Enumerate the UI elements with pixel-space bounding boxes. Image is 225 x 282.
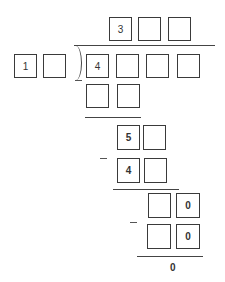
- subtraction-line-3: [137, 256, 203, 257]
- step4-digit-1[interactable]: [148, 193, 171, 218]
- dividend-digit-2[interactable]: [116, 54, 139, 78]
- step2-digit-1[interactable]: 5: [117, 125, 140, 150]
- step1-digit-2[interactable]: [117, 84, 140, 108]
- minus-sign-3: [130, 222, 137, 223]
- step3-digit-1[interactable]: 4: [117, 158, 140, 183]
- quotient-digit-1[interactable]: 3: [109, 17, 132, 41]
- division-bar: [74, 45, 215, 46]
- dividend-digit-4[interactable]: [177, 54, 200, 78]
- division-bracket: [72, 46, 82, 80]
- divisor-digit-1[interactable]: 1: [14, 54, 37, 78]
- minus-sign-1: [75, 80, 82, 81]
- step2-digit-2[interactable]: [143, 125, 166, 150]
- minus-sign-2: [100, 158, 107, 159]
- step3-digit-2[interactable]: [144, 158, 167, 183]
- quotient-digit-2[interactable]: [138, 17, 161, 41]
- step5-digit-2[interactable]: 0: [176, 224, 200, 249]
- dividend-digit-3[interactable]: [146, 54, 169, 78]
- step4-digit-2[interactable]: 0: [176, 193, 200, 218]
- divisor-digit-2[interactable]: [43, 54, 66, 78]
- quotient-digit-3[interactable]: [168, 17, 191, 41]
- dividend-digit-1[interactable]: 4: [86, 54, 109, 78]
- step5-digit-1[interactable]: [147, 224, 171, 249]
- final-remainder: 0: [170, 262, 176, 273]
- subtraction-line-2: [113, 189, 179, 190]
- subtraction-line-1: [85, 117, 141, 118]
- step1-digit-1[interactable]: [86, 84, 109, 108]
